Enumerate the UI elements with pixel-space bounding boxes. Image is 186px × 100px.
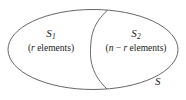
region-label-s2: S2 (n − r elements) — [92, 27, 180, 54]
region-s2-elements-text: elements) — [127, 43, 166, 53]
universe-label-s: S — [155, 75, 161, 87]
region-s2-count: (n − r elements) — [92, 43, 180, 54]
region-label-s1: S1 (r elements) — [14, 27, 88, 54]
region-s2-subscript: 2 — [137, 32, 141, 41]
region-s1-subscript: 1 — [52, 32, 56, 41]
region-s1-count: (r elements) — [14, 43, 88, 54]
venn-diagram-figure: S1 (r elements) S2 (n − r elements) S — [0, 0, 186, 100]
region-s2-name: S2 — [92, 27, 180, 42]
region-s1-elements-text: elements) — [35, 43, 74, 53]
region-s1-name: S1 — [14, 27, 88, 42]
region-s2-minus-operator: − — [113, 43, 123, 53]
